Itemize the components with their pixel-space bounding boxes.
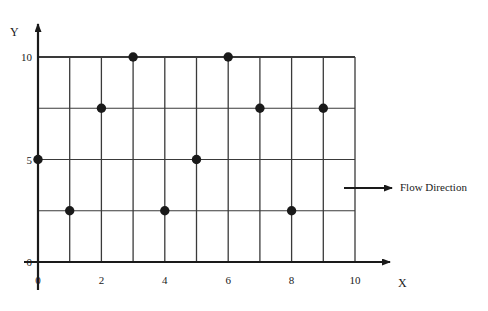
x-tick-label: 10 [350, 274, 361, 286]
data-point [160, 206, 169, 215]
data-point-group [33, 52, 328, 215]
data-point [128, 52, 137, 61]
data-point [65, 206, 74, 215]
x-tick-label: 6 [225, 274, 231, 286]
x-tick-label: 4 [162, 274, 168, 286]
y-tick-label: 10 [8, 51, 32, 63]
plot-canvas [0, 0, 488, 311]
x-axis-label: X [398, 276, 407, 291]
y-axis-label: Y [10, 25, 19, 40]
data-point [224, 52, 233, 61]
x-tick-label: 2 [99, 274, 105, 286]
data-point [33, 155, 42, 164]
scatter-plot-figure: 0246810 0510 Y X Flow Direction [0, 0, 488, 311]
y-tick-label: 5 [8, 154, 32, 166]
data-point [97, 104, 106, 113]
data-point [192, 155, 201, 164]
x-tick-label: 0 [35, 274, 41, 286]
data-point [287, 206, 296, 215]
data-point [319, 104, 328, 113]
y-tick-label: 0 [8, 256, 32, 268]
data-point [255, 104, 264, 113]
flow-direction-label: Flow Direction [400, 181, 467, 193]
x-tick-label: 8 [289, 274, 295, 286]
